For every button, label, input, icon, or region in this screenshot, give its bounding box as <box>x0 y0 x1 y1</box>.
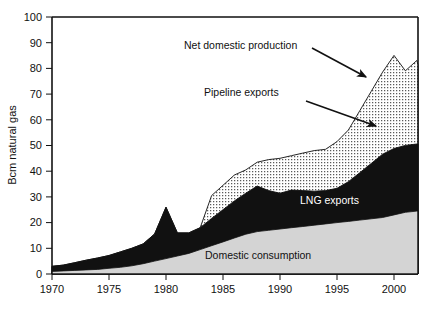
y-tick-label-20: 20 <box>30 216 42 228</box>
x-tick-label-1980: 1980 <box>154 283 178 295</box>
x-tick-label-1995: 1995 <box>325 283 349 295</box>
annotation-domestic-consumption: Domestic consumption <box>205 249 311 261</box>
x-tick-label-1970: 1970 <box>40 283 64 295</box>
y-axis-title: Bcm natural gas <box>6 105 18 185</box>
annotation-pipeline-exports: Pipeline exports <box>204 86 279 98</box>
x-tick-label-1975: 1975 <box>97 283 121 295</box>
y-tick-label-80: 80 <box>30 62 42 74</box>
y-tick-label-0: 0 <box>36 268 42 280</box>
x-tick-label-1990: 1990 <box>268 283 292 295</box>
y-tick-label-40: 40 <box>30 165 42 177</box>
y-tick-label-90: 90 <box>30 37 42 49</box>
y-tick-label-60: 60 <box>30 114 42 126</box>
y-tick-label-100: 100 <box>24 11 42 23</box>
y-tick-label-50: 50 <box>30 139 42 151</box>
y-tick-label-70: 70 <box>30 88 42 100</box>
x-tick-label-1985: 1985 <box>211 283 235 295</box>
stacked-area-chart: 0 10 20 30 40 50 60 70 80 90 100 Bcm nat… <box>0 0 433 311</box>
y-tick-label-30: 30 <box>30 191 42 203</box>
annotation-lng-exports: LNG exports <box>300 194 359 206</box>
x-tick-label-2000: 2000 <box>382 283 406 295</box>
annotation-net-domestic-production: Net domestic production <box>184 39 297 51</box>
y-tick-label-10: 10 <box>30 242 42 254</box>
chart-figure: 0 10 20 30 40 50 60 70 80 90 100 Bcm nat… <box>0 0 433 311</box>
